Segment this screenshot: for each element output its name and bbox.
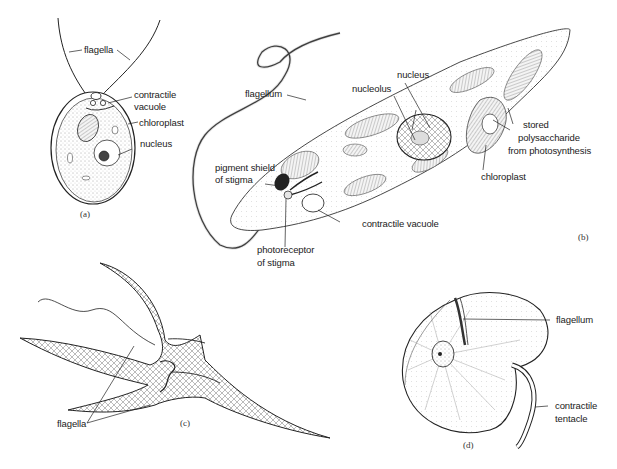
label-b-pigment-shield-line1: pigment shield bbox=[215, 162, 275, 173]
label-b-photoreceptor-line1: photoreceptor bbox=[257, 244, 314, 255]
label-b-nucleus: nucleus bbox=[397, 69, 429, 80]
label-b-stored-line2: polysaccharide bbox=[518, 132, 580, 143]
label-d-tentacle-line2: tentacle bbox=[555, 413, 587, 424]
label-d-tentacle-line1: contractile bbox=[555, 400, 597, 411]
illustration-layer bbox=[0, 0, 617, 469]
figure-canvas: flagella contractile vacuole chloroplast… bbox=[0, 0, 617, 469]
label-d-flagellum: flagellum bbox=[556, 314, 593, 325]
label-b-contractile-vacuole: contractile vacuole bbox=[362, 218, 439, 229]
caption-d: (d) bbox=[463, 440, 474, 450]
label-b-pigment-shield-line2: of stigma bbox=[215, 174, 253, 185]
label-a-nucleus: nucleus bbox=[140, 138, 172, 149]
label-b-photoreceptor-line2: of stigma bbox=[257, 257, 295, 268]
caption-b: (b) bbox=[578, 232, 589, 242]
label-b-stored-line1: stored bbox=[523, 119, 549, 130]
label-b-flagellum: flagellum bbox=[245, 88, 282, 99]
label-a-chloroplast: chloroplast bbox=[139, 117, 184, 128]
caption-c: (c) bbox=[180, 418, 190, 428]
label-a-contractile-vacuole-line2: vacuole bbox=[134, 101, 166, 112]
caption-a: (a) bbox=[80, 209, 90, 219]
label-b-chloroplast: chloroplast bbox=[481, 171, 526, 182]
label-c-flagella: flagella bbox=[57, 418, 86, 429]
label-b-nucleolus: nucleolus bbox=[352, 83, 391, 94]
panel-b-euglena bbox=[193, 29, 570, 248]
label-a-contractile-vacuole-line1: contractile bbox=[134, 89, 176, 100]
label-a-flagella: flagella bbox=[84, 44, 113, 55]
label-b-stored-line3: from photosynthesis bbox=[508, 145, 591, 156]
panel-d-noctiluca bbox=[402, 293, 550, 447]
panel-c-ceratium bbox=[20, 263, 330, 438]
